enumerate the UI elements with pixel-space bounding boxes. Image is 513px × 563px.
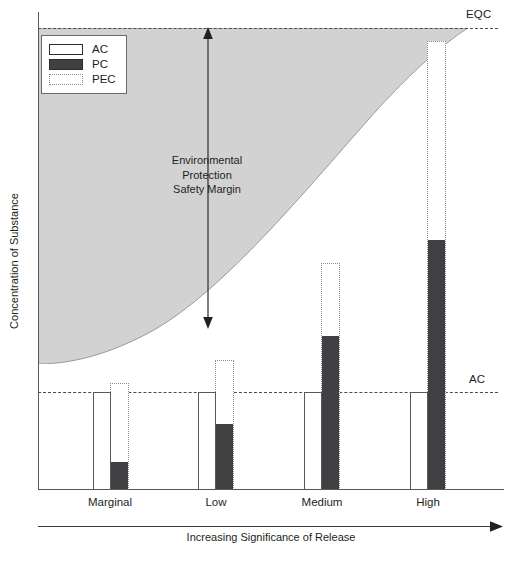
bar-ac-medium (304, 392, 322, 490)
x-tick-label-marginal: Marginal (70, 496, 150, 508)
x-tick-label-high: High (388, 496, 468, 508)
legend-item-pec[interactable]: PEC (49, 72, 116, 87)
bar-pc-marginal (111, 462, 128, 490)
x-axis-title: Increasing Significance of Release (38, 531, 504, 543)
legend-swatch-ac-icon (49, 44, 83, 55)
bar-pc-low (216, 424, 233, 490)
legend-item-pc[interactable]: PC (49, 57, 116, 72)
legend-label-pec: PEC (92, 74, 116, 86)
chart-figure: EQC AC Environmental Protection Safety M… (0, 0, 513, 563)
x-tick-label-low: Low (176, 496, 256, 508)
legend-swatch-pc-icon (49, 59, 83, 70)
bar-pc-medium (322, 336, 339, 490)
legend-item-ac[interactable]: AC (49, 42, 116, 57)
x-axis-line (38, 489, 504, 490)
bar-ac-low (198, 392, 216, 490)
y-axis-line (38, 12, 39, 490)
x-axis-direction-arrow (38, 518, 504, 529)
y-axis-title: Concentration of Substance (8, 151, 20, 371)
legend-swatch-pec-icon (49, 74, 83, 85)
x-tick-label-medium: Medium (282, 496, 362, 508)
bar-pc-high (428, 240, 445, 490)
legend-label-ac: AC (92, 44, 108, 56)
bar-ac-marginal (93, 392, 111, 490)
legend-label-pc: PC (92, 59, 108, 71)
bar-ac-high (410, 392, 428, 490)
chart-legend: AC PC PEC (41, 35, 127, 94)
